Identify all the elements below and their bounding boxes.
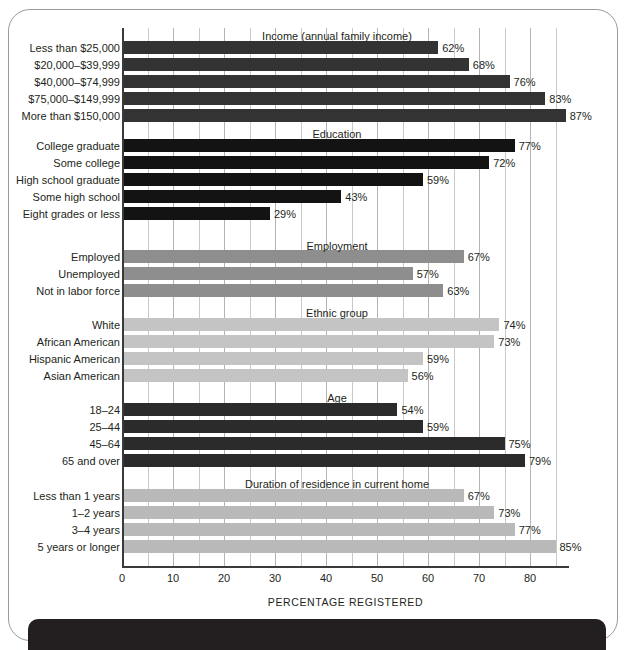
bar-value-label: 73% xyxy=(498,507,520,519)
category-label: 3–4 years xyxy=(2,524,120,536)
x-tick-label-40: 40 xyxy=(320,572,332,584)
category-label: Eight grades or less xyxy=(2,208,120,220)
category-label: More than $150,000 xyxy=(2,110,120,122)
category-label: Some high school xyxy=(2,191,120,203)
x-tick-label-0: 0 xyxy=(119,572,125,584)
bar-value-label: 54% xyxy=(401,404,423,416)
category-label: Some college xyxy=(2,157,120,169)
x-tick-label-80: 80 xyxy=(524,572,536,584)
bar-value-label: 77% xyxy=(519,524,541,536)
category-label: 65 and over xyxy=(2,455,120,467)
group-title-3: Ethnic group xyxy=(122,307,552,319)
category-label: Hispanic American xyxy=(2,353,120,365)
bar xyxy=(122,352,423,365)
bar xyxy=(122,523,515,536)
category-label: 1–2 years xyxy=(2,507,120,519)
bar-value-label: 85% xyxy=(560,541,582,553)
category-label: 25–44 xyxy=(2,421,120,433)
bar xyxy=(122,190,341,203)
chart-page: PERCENTAGE REGISTERED 01020304050607080I… xyxy=(0,0,626,650)
bar xyxy=(122,284,443,297)
category-label: 5 years or longer xyxy=(2,541,120,553)
x-tick-label-60: 60 xyxy=(422,572,434,584)
bar xyxy=(122,58,469,71)
bar-value-label: 57% xyxy=(417,268,439,280)
bar xyxy=(122,489,464,502)
bar xyxy=(122,437,505,450)
bar xyxy=(122,318,499,331)
bar-value-label: 59% xyxy=(427,174,449,186)
category-label: $40,000–$74,999 xyxy=(2,76,120,88)
x-tick-label-30: 30 xyxy=(269,572,281,584)
category-label: African American xyxy=(2,336,120,348)
category-label: $75,000–$149,999 xyxy=(2,93,120,105)
bar xyxy=(122,207,270,220)
bar xyxy=(122,369,408,382)
bar-value-label: 67% xyxy=(468,251,490,263)
category-label: White xyxy=(2,319,120,331)
x-axis-line xyxy=(122,566,569,568)
bar xyxy=(122,75,510,88)
bar xyxy=(122,420,423,433)
category-label: 18–24 xyxy=(2,404,120,416)
bar-value-label: 67% xyxy=(468,490,490,502)
bar-value-label: 68% xyxy=(473,59,495,71)
bar-value-label: 79% xyxy=(529,455,551,467)
bottom-decorative-band xyxy=(28,619,606,650)
bar xyxy=(122,540,556,553)
category-label: Less than $25,000 xyxy=(2,42,120,54)
x-tick-label-10: 10 xyxy=(167,572,179,584)
bar xyxy=(122,139,515,152)
group-title-5: Duration of residence in current home xyxy=(122,478,552,490)
bar xyxy=(122,173,423,186)
bar-value-label: 43% xyxy=(345,191,367,203)
bar xyxy=(122,403,397,416)
category-label: Asian American xyxy=(2,370,120,382)
bar xyxy=(122,267,413,280)
bar-value-label: 59% xyxy=(427,353,449,365)
x-tick-label-70: 70 xyxy=(473,572,485,584)
category-label: College graduate xyxy=(2,140,120,152)
bar-value-label: 83% xyxy=(549,93,571,105)
category-label: High school graduate xyxy=(2,174,120,186)
bar-value-label: 77% xyxy=(519,140,541,152)
bar xyxy=(122,335,494,348)
bar xyxy=(122,92,545,105)
bar xyxy=(122,506,494,519)
bar xyxy=(122,109,566,122)
x-tick-label-20: 20 xyxy=(218,572,230,584)
bar xyxy=(122,41,438,54)
bar-value-label: 59% xyxy=(427,421,449,433)
group-title-1: Education xyxy=(122,128,552,140)
category-label: $20,000–$39,999 xyxy=(2,59,120,71)
category-label: 45–64 xyxy=(2,438,120,450)
bar-value-label: 56% xyxy=(412,370,434,382)
bar-value-label: 76% xyxy=(514,76,536,88)
bar-value-label: 74% xyxy=(503,319,525,331)
bar-value-label: 72% xyxy=(493,157,515,169)
bar-value-label: 63% xyxy=(447,285,469,297)
x-axis-title: PERCENTAGE REGISTERED xyxy=(122,596,569,608)
category-label: Less than 1 years xyxy=(2,490,120,502)
bar-value-label: 75% xyxy=(509,438,531,450)
bar-value-label: 62% xyxy=(442,42,464,54)
bar xyxy=(122,156,489,169)
category-label: Employed xyxy=(2,251,120,263)
x-tick-label-50: 50 xyxy=(371,572,383,584)
bar-value-label: 87% xyxy=(570,110,592,122)
bar-value-label: 29% xyxy=(274,208,296,220)
category-label: Not in labor force xyxy=(2,285,120,297)
category-label: Unemployed xyxy=(2,268,120,280)
group-title-0: Income (annual family income) xyxy=(122,30,552,42)
group-title-4: Age xyxy=(122,392,552,404)
bar-value-label: 73% xyxy=(498,336,520,348)
bar xyxy=(122,454,525,467)
